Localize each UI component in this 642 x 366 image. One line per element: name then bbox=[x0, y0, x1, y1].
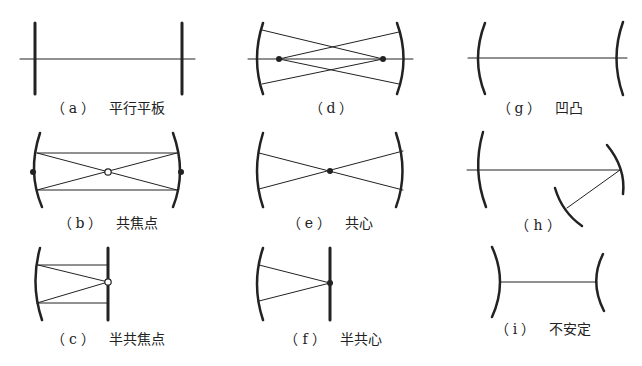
panel-i-label: （i）不安定 bbox=[495, 321, 591, 337]
panel-g-name: 凹凸 bbox=[555, 100, 583, 116]
diagram-canvas bbox=[0, 0, 642, 366]
panel-c-tag: （c） bbox=[51, 331, 99, 347]
panel-f-label: （f）半共心 bbox=[284, 331, 381, 347]
panel-c-name: 半共焦点 bbox=[109, 331, 165, 347]
panel-b-diagram bbox=[30, 133, 184, 207]
panel-f-diagram bbox=[257, 248, 333, 320]
panel-i-name: 不安定 bbox=[549, 321, 591, 337]
panel-a-tag: （a） bbox=[51, 100, 99, 116]
panel-h-label: （h） bbox=[515, 217, 564, 233]
panel-i-diagram bbox=[492, 247, 604, 317]
panel-g-diagram bbox=[468, 22, 627, 95]
panel-g-label: （g）凹凸 bbox=[497, 100, 584, 116]
panel-c-label: （c）半共焦点 bbox=[51, 331, 165, 347]
panel-f-tag: （f） bbox=[284, 331, 329, 347]
panel-c-diagram bbox=[35, 248, 111, 320]
panel-d-tag: （d） bbox=[309, 100, 358, 116]
panel-i-tag: （i） bbox=[495, 321, 539, 337]
panel-e-tag: （e） bbox=[287, 215, 335, 231]
panel-g-tag: （g） bbox=[497, 100, 546, 116]
panel-b-label: （b）共焦点 bbox=[58, 215, 159, 231]
panel-a-name: 平行平板 bbox=[109, 100, 165, 116]
panel-e-name: 共心 bbox=[345, 215, 373, 231]
panel-d-label: （d） bbox=[309, 100, 358, 116]
panel-a-label: （a）平行平板 bbox=[51, 100, 165, 116]
panel-d-diagram bbox=[248, 23, 413, 94]
panel-h-tag: （h） bbox=[515, 217, 564, 233]
panel-a-diagram bbox=[20, 23, 195, 94]
panel-e-label: （e）共心 bbox=[287, 215, 373, 231]
panel-h-diagram bbox=[467, 132, 623, 226]
panel-b-tag: （b） bbox=[58, 215, 107, 231]
panel-b-name: 共焦点 bbox=[116, 215, 158, 231]
resonator-figure: （a）平行平板 （b）共焦点 （c）半共焦点 （d） （e）共心 （f）半共心 … bbox=[0, 0, 642, 366]
panel-e-diagram bbox=[257, 133, 403, 207]
panel-f-name: 半共心 bbox=[340, 331, 382, 347]
